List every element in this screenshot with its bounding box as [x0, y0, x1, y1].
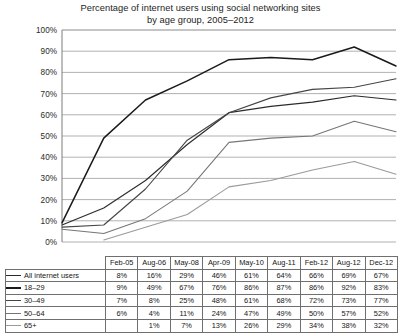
table-cell-value: 64% [268, 269, 300, 282]
table-column-header: May-08 [170, 257, 202, 270]
table-cell-value: 92% [333, 282, 365, 295]
table-cell-value: 77% [365, 294, 397, 307]
table-cell-value: 72% [300, 294, 332, 307]
table-cell-value: 24% [203, 307, 235, 320]
table-cell-value: 61% [235, 294, 267, 307]
table-cell-value: 29% [268, 319, 300, 332]
table-cell-value: 8% [106, 269, 138, 282]
table-cell-value: 83% [365, 282, 397, 295]
table-cell-value: 8% [138, 294, 170, 307]
table-column-header: Aug-11 [268, 257, 300, 270]
table-cell-value: 66% [300, 269, 332, 282]
table-column-header: Aug-06 [138, 257, 170, 270]
series-line [104, 161, 396, 239]
series-line [62, 121, 396, 233]
table-cell-value: 87% [268, 282, 300, 295]
table-header-row: Feb-05Aug-06May-08Apr-09May-10Aug-11Feb-… [6, 257, 398, 270]
chart-title: Percentage of internet users using socia… [0, 2, 401, 26]
series-line [62, 79, 396, 227]
table-cell-value: 73% [333, 294, 365, 307]
table-cell-value: 47% [235, 307, 267, 320]
legend-entry: 30–49 [6, 294, 106, 307]
table-cell-value: 86% [235, 282, 267, 295]
chart-data-table: Feb-05Aug-06May-08Apr-09May-10Aug-11Feb-… [5, 256, 398, 333]
y-axis-tick-label: 0% [45, 238, 57, 247]
y-axis-tick-label: 70% [41, 90, 57, 99]
legend-label: 50–64 [24, 309, 45, 318]
legend-line-swatch-icon [6, 325, 21, 326]
table-cell-value: 49% [138, 282, 170, 295]
table-cell-value: 86% [300, 282, 332, 295]
y-axis-tick-label: 50% [41, 132, 57, 141]
table-cell-value: 49% [268, 307, 300, 320]
table-cell-value: 1% [138, 319, 170, 332]
table-row: 65+1%7%13%26%29%34%38%32% [6, 319, 398, 332]
table-cell-value: 50% [300, 307, 332, 320]
table-cell-value: 11% [170, 307, 202, 320]
table-cell-value: 76% [203, 282, 235, 295]
y-axis-tick-label: 90% [41, 47, 57, 56]
legend-line-swatch-icon [6, 287, 21, 289]
table-cell-value: 69% [333, 269, 365, 282]
table-cell-value: 46% [203, 269, 235, 282]
table-cell-value: 26% [235, 319, 267, 332]
table-cell-value: 7% [106, 294, 138, 307]
table-cell-value: 32% [365, 319, 397, 332]
legend-label: 65+ [24, 321, 37, 330]
line-chart-plot: 100%90%80%70%60%50%40%30%20%10%0% [0, 24, 401, 256]
table-row: 50–646%4%11%24%47%49%50%57%52% [6, 307, 398, 320]
table-column-header: Feb-12 [300, 257, 332, 270]
y-axis-tick-label: 10% [41, 217, 57, 226]
legend-label: 30–49 [24, 296, 45, 305]
chart-title-line-1: Percentage of internet users using socia… [0, 2, 401, 14]
y-axis-tick-label: 30% [41, 174, 57, 183]
table-column-header: May-10 [235, 257, 267, 270]
legend-line-swatch-icon [6, 313, 21, 314]
table-cell-value: 38% [333, 319, 365, 332]
table-cell-value: 67% [170, 282, 202, 295]
legend-entry: All internet users [6, 269, 106, 282]
series-line [62, 47, 396, 223]
table-cell-value: 34% [300, 319, 332, 332]
table-cell-value: 7% [170, 319, 202, 332]
legend-label: 18–29 [24, 283, 45, 292]
table-column-header: Aug-12 [333, 257, 365, 270]
y-axis-tick-label: 40% [41, 153, 57, 162]
table-column-header: Apr-09 [203, 257, 235, 270]
y-axis-tick-label: 100% [36, 26, 57, 35]
table-cell-value: 29% [170, 269, 202, 282]
table-cell-value: 16% [138, 269, 170, 282]
table-cell-value: 52% [365, 307, 397, 320]
legend-line-swatch-icon [6, 300, 21, 301]
legend-label: All internet users [24, 271, 79, 280]
legend-line-swatch-icon [6, 275, 21, 276]
table-cell-value: 13% [203, 319, 235, 332]
table-row: 18–299%49%67%76%86%87%86%92%83% [6, 282, 398, 295]
table-row: 30–497%8%25%48%61%68%72%73%77% [6, 294, 398, 307]
legend-entry: 50–64 [6, 307, 106, 320]
table-column-header: Feb-05 [106, 257, 138, 270]
table-cell-value: 6% [106, 307, 138, 320]
table-body: All internet users8%16%29%46%61%64%66%69… [6, 269, 398, 332]
y-axis-tick-label: 80% [41, 68, 57, 77]
table-cell-value [106, 319, 138, 332]
table-cell-value: 68% [268, 294, 300, 307]
table-cell-value: 67% [365, 269, 397, 282]
y-axis-tick-label: 20% [41, 196, 57, 205]
table-cell-value: 9% [106, 282, 138, 295]
table-cell-value: 57% [333, 307, 365, 320]
legend-entry: 18–29 [6, 282, 106, 295]
table-cell-value: 4% [138, 307, 170, 320]
y-axis-tick-label: 60% [41, 111, 57, 120]
table-row: All internet users8%16%29%46%61%64%66%69… [6, 269, 398, 282]
legend-entry: 65+ [6, 319, 106, 332]
table-cell-value: 61% [235, 269, 267, 282]
table-corner-cell [6, 257, 106, 270]
table-cell-value: 48% [203, 294, 235, 307]
table-cell-value: 25% [170, 294, 202, 307]
table-column-header: Dec-12 [365, 257, 397, 270]
